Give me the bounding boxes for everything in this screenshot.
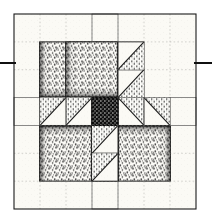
quilt-block-illustration <box>0 0 212 222</box>
center-square <box>92 98 118 126</box>
bears-paw-block <box>14 14 196 209</box>
figure-canvas <box>0 0 212 222</box>
